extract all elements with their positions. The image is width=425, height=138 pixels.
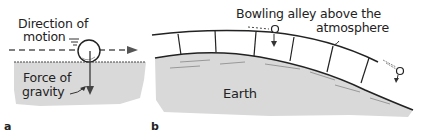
direction-arrowhead [127,46,138,54]
panel-letter-a: a [4,120,11,133]
ball [78,40,100,62]
falling-ball [397,68,404,75]
panel-letter-b: b [151,120,159,133]
panel-b-bowling-alley-above-earth: Bowling alley above the atmosphere Earth… [150,0,425,138]
label-bowling-alley: Bowling alley above the [236,7,381,20]
label-motion: motion [23,30,66,43]
label-earth: Earth [223,87,257,100]
label-force-of: Force of [23,71,71,84]
panel-a-ball-on-ground: Direction of motion Force of gravity a [0,0,150,138]
ball-on-alley [272,26,279,33]
label-gravity: gravity [22,85,65,98]
label-atmosphere: atmosphere [316,21,389,34]
